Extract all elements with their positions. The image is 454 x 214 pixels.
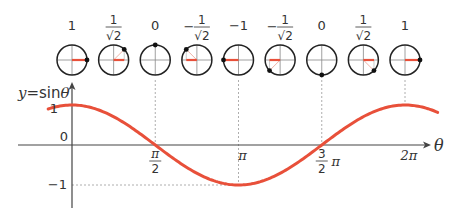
unit-circle [140, 43, 170, 75]
unit-circle [265, 45, 295, 75]
unit-circle-sine-diagram: 11√20−1√2−1−1√201√21 y=sinθ 1 0 −1 θ π2π… [0, 0, 454, 214]
y-tick-0: 0 [60, 129, 68, 144]
fraction-denominator: √2 [194, 29, 209, 43]
value-text: 0 [318, 18, 326, 33]
circle-value-label: −1 [229, 18, 248, 33]
x-axis-label: θ [434, 136, 444, 155]
circle-value-label: −1√2 [183, 13, 209, 43]
point-dot [85, 58, 90, 63]
fraction-numerator: 1 [360, 13, 368, 27]
fraction-denominator: √2 [106, 29, 121, 43]
point-dot [267, 68, 272, 73]
point-dot [319, 73, 324, 78]
point-dot [184, 47, 189, 52]
guide-lines [72, 80, 405, 185]
fraction-numerator: 1 [110, 13, 118, 27]
circle-value-label: 0 [151, 18, 159, 33]
fraction-numerator: 1 [198, 13, 206, 27]
value-text: 1 [401, 18, 409, 33]
point-dot [122, 47, 127, 52]
circle-value-label: 1 [401, 18, 409, 33]
unit-circle [221, 45, 253, 75]
circle-value-label: 0 [318, 18, 326, 33]
circle-value-label: 1 [68, 18, 76, 33]
fraction-denominator: √2 [356, 29, 371, 43]
x-tick-numerator: 3 [318, 147, 326, 161]
value-text: 0 [151, 18, 159, 33]
circle-value-label: 1√2 [355, 13, 371, 43]
x-tick-suffix: π [330, 154, 340, 169]
minus-sign: − [183, 19, 194, 34]
unit-circle [390, 45, 422, 75]
point-dot [153, 43, 158, 48]
unit-circle [182, 45, 212, 75]
circle-value-label: 1√2 [106, 13, 122, 43]
x-tick-numerator: π [150, 147, 160, 161]
y-tick-neg1: −1 [48, 177, 67, 192]
value-text: −1 [229, 18, 248, 33]
x-tick-denominator: 2 [151, 162, 159, 176]
axes [18, 82, 431, 208]
minus-sign: − [267, 19, 278, 34]
y-label: y=sinθ [17, 84, 70, 102]
unit-circle [348, 45, 378, 75]
x-tick-denominator: 2 [318, 162, 326, 176]
y-tick-1: 1 [50, 101, 58, 116]
point-dot [372, 68, 377, 73]
point-dot [418, 58, 423, 63]
circle-value-label: −1√2 [267, 13, 293, 43]
fraction-denominator: √2 [277, 29, 292, 43]
unit-circle [307, 45, 337, 77]
unit-circle [57, 45, 89, 75]
x-tick-label: π [237, 148, 247, 163]
value-text: 1 [68, 18, 76, 33]
fraction-numerator: 1 [281, 13, 289, 27]
unit-circle [99, 45, 129, 75]
x-tick-label: 2π [400, 148, 418, 163]
point-dot [221, 58, 226, 63]
unit-circles: 11√20−1√2−1−1√201√21 [57, 13, 422, 77]
